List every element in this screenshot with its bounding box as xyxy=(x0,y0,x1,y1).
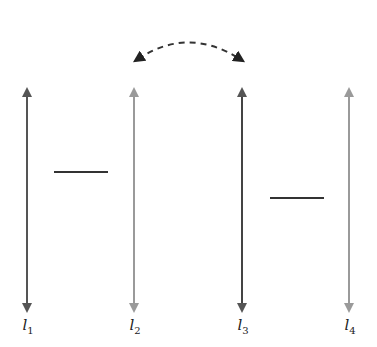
label-l2: l2 xyxy=(129,316,140,336)
diagram-canvas xyxy=(0,0,377,347)
swap-arrow xyxy=(138,43,240,60)
label-l4: l4 xyxy=(344,316,355,336)
label-l1: l1 xyxy=(22,316,33,336)
label-l3: l3 xyxy=(237,316,248,336)
